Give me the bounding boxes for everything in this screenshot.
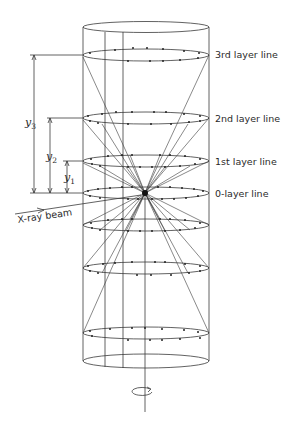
label-y1: y1 — [64, 172, 75, 186]
layer-line-minus-2 — [83, 262, 209, 274]
layer-line-3 — [83, 49, 209, 61]
label-1st-layer-line: 1st layer line — [215, 157, 277, 167]
film-top-rim — [83, 22, 209, 33]
layer-line-1 — [83, 155, 209, 167]
crystal-icon — [142, 190, 148, 196]
layer-line-minus-3 — [83, 327, 209, 339]
label-y3: y3 — [25, 117, 36, 131]
label-0-layer-line: 0-layer line — [215, 189, 268, 199]
film-bottom-rim — [83, 354, 209, 368]
label-2nd-layer-line: 2nd layer line — [215, 114, 280, 124]
label-3rd-layer-line: 3rd layer line — [215, 50, 278, 60]
layer-line-minus-1 — [83, 219, 209, 231]
label-y2: y2 — [46, 151, 57, 165]
diagram-canvas: 3rd layer line 2nd layer line 1st layer … — [0, 0, 285, 433]
